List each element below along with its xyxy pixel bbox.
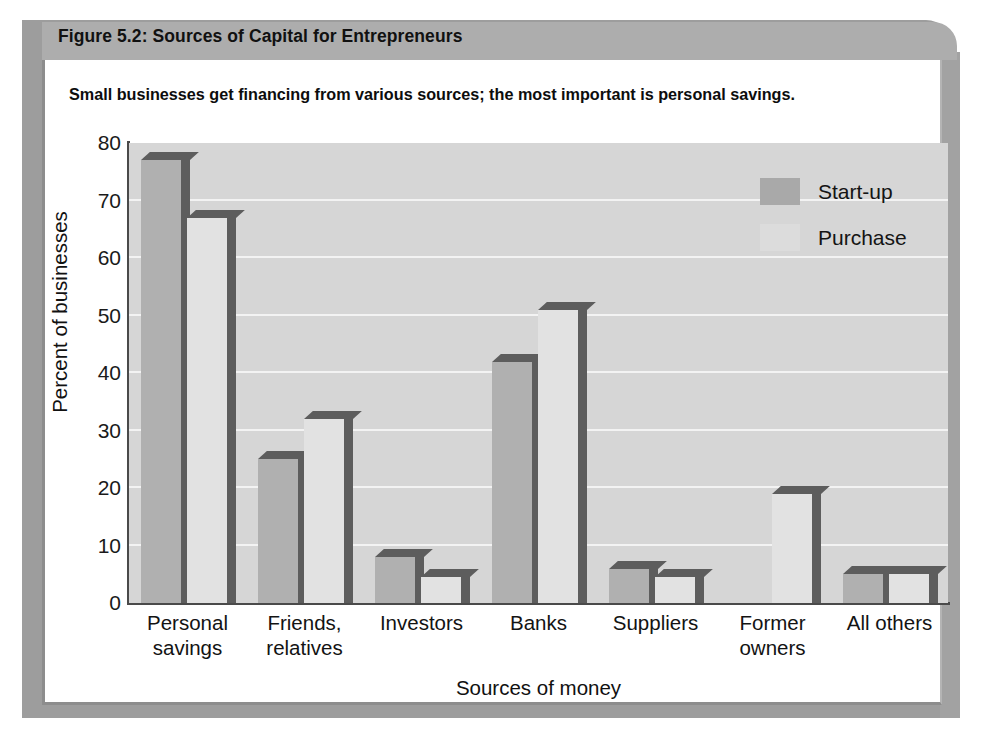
bar-side-shadow bbox=[227, 218, 236, 603]
bar bbox=[655, 577, 695, 603]
x-axis-tick-label: All others bbox=[810, 610, 970, 635]
bar bbox=[843, 574, 883, 603]
bar-top-shadow bbox=[889, 566, 947, 574]
bar-face bbox=[655, 577, 695, 603]
bar-side-shadow bbox=[695, 577, 704, 603]
y-axis-tick-label: 10 bbox=[59, 534, 121, 558]
bar-face bbox=[141, 160, 181, 603]
bar-top-shadow bbox=[187, 210, 245, 218]
bar-side-shadow bbox=[578, 310, 587, 603]
bar-face bbox=[304, 419, 344, 603]
bar-face bbox=[258, 459, 298, 603]
legend-label: Start-up bbox=[818, 180, 893, 204]
bar-top-shadow bbox=[421, 569, 479, 577]
bar-face bbox=[492, 362, 532, 604]
x-axis-tick-labels: PersonalsavingsFriends,relativesInvestor… bbox=[129, 610, 948, 678]
bar-top-shadow bbox=[375, 549, 433, 557]
bar-face bbox=[843, 574, 883, 603]
bar-face bbox=[609, 569, 649, 604]
bar-face bbox=[187, 218, 227, 603]
bar-top-shadow bbox=[304, 411, 362, 419]
bar-side-shadow bbox=[929, 574, 938, 603]
bar bbox=[258, 459, 298, 603]
bar-side-shadow bbox=[461, 577, 470, 603]
bar bbox=[421, 577, 461, 603]
bar-top-shadow bbox=[772, 486, 830, 494]
legend-item: Purchase bbox=[760, 224, 907, 251]
bar bbox=[538, 310, 578, 603]
bar-top-shadow bbox=[141, 152, 199, 160]
gridline bbox=[129, 256, 948, 258]
bar bbox=[609, 569, 649, 604]
figure-page: Figure 5.2: Sources of Capital for Entre… bbox=[0, 0, 987, 739]
legend-swatch-icon bbox=[760, 178, 800, 205]
bar bbox=[304, 419, 344, 603]
figure-subtitle: Small businesses get financing from vari… bbox=[69, 85, 949, 104]
bar-face bbox=[375, 557, 415, 603]
y-axis-title: Percent of businesses bbox=[48, 122, 72, 502]
plot-area bbox=[129, 143, 948, 603]
bar-face bbox=[772, 494, 812, 603]
bar bbox=[772, 494, 812, 603]
legend-item: Start-up bbox=[760, 178, 893, 205]
legend-swatch-icon bbox=[760, 224, 800, 251]
bar bbox=[889, 574, 929, 603]
x-axis-title: Sources of money bbox=[129, 676, 948, 700]
bar bbox=[492, 362, 532, 604]
bar-side-shadow bbox=[812, 494, 821, 603]
bar bbox=[187, 218, 227, 603]
bar-top-shadow bbox=[538, 302, 596, 310]
bar-face bbox=[421, 577, 461, 603]
bar bbox=[375, 557, 415, 603]
bar-top-shadow bbox=[655, 569, 713, 577]
bar bbox=[141, 160, 181, 603]
figure-title: Figure 5.2: Sources of Capital for Entre… bbox=[58, 26, 462, 47]
bar-face bbox=[889, 574, 929, 603]
bar-face bbox=[538, 310, 578, 603]
bar-side-shadow bbox=[344, 419, 353, 603]
legend-label: Purchase bbox=[818, 226, 907, 250]
bar-top-shadow bbox=[609, 561, 667, 569]
